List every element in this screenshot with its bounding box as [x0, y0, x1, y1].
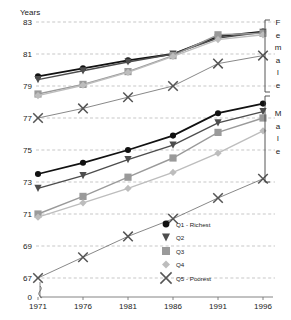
female-side-label-letter: F: [276, 18, 281, 27]
marker-triangle-down: [162, 234, 170, 242]
legend-label: Q1 - Richest: [176, 221, 211, 228]
chart-canvas: 8381797775737169670Years1971197619811986…: [0, 0, 291, 320]
legend-item-q2[interactable]: Q2: [162, 234, 185, 242]
marker-cross: [33, 273, 43, 283]
series-female-q4: [34, 31, 266, 99]
y-axis-unit-label: Years: [20, 8, 40, 17]
series-line: [38, 131, 263, 217]
y-tick-label-75: 75: [23, 146, 32, 155]
marker-cross: [258, 51, 268, 61]
y-tick-label-77: 77: [23, 114, 32, 123]
male-side-label-letter: l: [277, 134, 279, 143]
x-tick-label-1971: 1971: [29, 302, 47, 311]
y-tick-label-71: 71: [23, 210, 32, 219]
series-line: [38, 104, 263, 174]
marker-cross: [78, 104, 88, 114]
marker-cross: [123, 232, 133, 242]
female-side-label-letter: l: [277, 68, 279, 77]
male-side-label-letter: M: [275, 109, 282, 118]
marker-square: [79, 193, 86, 200]
marker-circle: [163, 221, 170, 228]
marker-square: [162, 247, 170, 255]
y-tick-label-83: 83: [23, 18, 32, 27]
x-tick-label-1991: 1991: [209, 302, 227, 311]
male-side-label-letter: a: [276, 122, 281, 131]
marker-circle: [125, 147, 131, 153]
legend-label: Q3: [176, 248, 185, 255]
marker-diamond: [124, 185, 131, 192]
marker-cross: [213, 193, 223, 203]
marker-triangle-down: [124, 156, 131, 163]
female-side-label-letter: m: [275, 43, 282, 52]
series-male-q1-richest: [35, 101, 266, 178]
y-tick-label-69: 69: [23, 242, 32, 251]
marker-circle: [170, 133, 176, 139]
marker-cross: [213, 59, 223, 69]
x-tick-label-1986: 1986: [164, 302, 182, 311]
series-female-q2: [34, 29, 266, 83]
marker-diamond: [214, 150, 221, 157]
marker-square: [124, 174, 131, 181]
marker-circle: [215, 110, 221, 116]
life-expectancy-chart: 8381797775737169670Years1971197619811986…: [0, 0, 291, 320]
series-female-q3: [34, 30, 266, 98]
marker-diamond: [259, 127, 266, 134]
marker-circle: [35, 171, 41, 177]
marker-diamond: [169, 169, 176, 176]
series-line: [38, 33, 263, 94]
y-tick-label-0: 0: [28, 293, 33, 302]
series-male-q5-poorest: [33, 174, 268, 283]
marker-square: [259, 114, 266, 121]
x-tick-label-1996: 1996: [254, 302, 272, 311]
legend-label: Q4: [176, 261, 185, 268]
legend-item-q4[interactable]: Q4: [162, 261, 185, 269]
marker-cross: [168, 81, 178, 91]
marker-cross: [33, 113, 43, 123]
marker-square: [169, 154, 176, 161]
marker-cross: [78, 252, 88, 262]
female-side-label-letter: e: [276, 81, 281, 90]
series-line: [38, 179, 263, 278]
series-male-q4: [34, 127, 266, 221]
y-tick-label-67: 67: [23, 274, 32, 283]
legend-label: Q5 - Poorest: [176, 275, 211, 282]
x-tick-label-1976: 1976: [74, 302, 92, 311]
marker-cross: [123, 92, 133, 102]
female-side-label-letter: e: [276, 31, 281, 40]
marker-circle: [80, 160, 86, 166]
marker-diamond: [79, 199, 86, 206]
series-line: [38, 32, 263, 79]
x-tick-label-1981: 1981: [119, 302, 137, 311]
marker-diamond: [162, 261, 170, 269]
y-tick-label-79: 79: [23, 82, 32, 91]
y-tick-label-81: 81: [23, 50, 32, 59]
male-side-label-letter: e: [276, 147, 281, 156]
legend-item-q3[interactable]: Q3: [162, 247, 185, 255]
y-tick-label-73: 73: [23, 178, 32, 187]
marker-square: [214, 129, 221, 136]
marker-triangle-down: [169, 142, 176, 149]
female-side-label-letter: a: [276, 56, 281, 65]
legend-label: Q2: [176, 234, 185, 241]
